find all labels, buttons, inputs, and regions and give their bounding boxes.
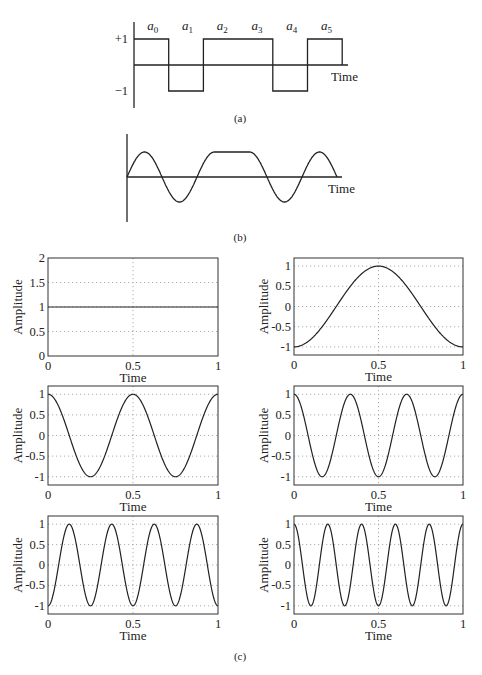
y-tick-label: -1 — [35, 599, 45, 613]
y-tick-label: 1 — [285, 517, 291, 531]
subplot-c5: -1-0.500.5100.51TimeAmplitude — [10, 516, 221, 643]
y-axis-label: Amplitude — [10, 537, 25, 593]
x-tick-label: 0 — [45, 488, 51, 502]
y-tick-label: 0.5 — [275, 408, 291, 422]
y-tick-label: 1 — [285, 387, 291, 401]
y-axis-label: Amplitude — [256, 278, 271, 334]
panel-a-ytick-minus1: −1 — [115, 84, 128, 98]
subplot-c6: -1-0.500.5100.51TimeAmplitude — [256, 516, 466, 643]
y-tick-label: 1 — [39, 387, 45, 401]
y-tick-label: 0 — [285, 429, 291, 443]
panel-b-xlabel: Time — [328, 181, 355, 196]
y-tick-label: 1 — [39, 300, 45, 314]
x-axis-label: Time — [120, 628, 147, 643]
panel-a-xlabel: Time — [331, 69, 358, 84]
y-tick-label: 0 — [39, 429, 45, 443]
y-tick-label: 1.5 — [29, 276, 45, 290]
y-tick-label: -1 — [281, 470, 291, 484]
panel-c-caption: (c) — [234, 650, 247, 663]
y-tick-label: 1 — [285, 259, 291, 273]
y-tick-label: 0.5 — [29, 325, 45, 339]
x-tick-label: 1 — [215, 617, 221, 631]
panel-a: +1 −1 Time a0a1a2a3a4a5 (a) — [115, 18, 359, 125]
panel-a-symbol-labels: a0a1a2a3a4a5 — [147, 18, 332, 35]
symbol-label-a1: a1 — [182, 18, 193, 35]
y-axis-label: Amplitude — [10, 407, 25, 463]
x-tick-label: 1 — [460, 488, 466, 502]
y-tick-label: -1 — [281, 599, 291, 613]
subplot-c1: 00.511.5200.51TimeAmplitude — [10, 251, 221, 385]
x-axis-label: Time — [120, 370, 147, 385]
symbol-label-a5: a5 — [321, 18, 333, 35]
subplot-c2: -1-0.500.5100.51TimeAmplitude — [256, 258, 466, 384]
y-tick-label: -0.5 — [271, 320, 291, 334]
x-tick-label: 0 — [45, 617, 51, 631]
y-tick-label: 1 — [39, 517, 45, 531]
x-tick-label: 0 — [291, 358, 297, 372]
figure: +1 −1 Time a0a1a2a3a4a5 (a) Time (b) 00.… — [0, 0, 482, 675]
x-tick-label: 1 — [460, 617, 466, 631]
y-tick-label: 0.5 — [275, 279, 291, 293]
y-tick-label: -1 — [35, 470, 45, 484]
y-axis-label: Amplitude — [256, 407, 271, 463]
symbol-label-a0: a0 — [147, 18, 159, 35]
y-tick-label: 0.5 — [275, 538, 291, 552]
x-axis-label: Time — [120, 499, 147, 514]
x-axis-label: Time — [365, 369, 392, 384]
y-axis-label: Amplitude — [256, 537, 271, 593]
panel-c: 00.511.5200.51TimeAmplitude-1-0.500.5100… — [10, 251, 466, 643]
symbol-label-a3: a3 — [252, 18, 264, 35]
y-tick-label: 0.5 — [29, 538, 45, 552]
y-tick-label: -0.5 — [25, 449, 45, 463]
panel-b: Time (b) — [127, 134, 355, 244]
panel-a-caption: (a) — [234, 112, 247, 125]
y-tick-label: 0 — [285, 558, 291, 572]
y-tick-label: 0 — [39, 558, 45, 572]
x-tick-label: 1 — [215, 359, 221, 373]
y-tick-label: -0.5 — [271, 449, 291, 463]
x-tick-label: 0 — [291, 617, 297, 631]
y-tick-label: -1 — [281, 340, 291, 354]
x-tick-label: 0 — [291, 488, 297, 502]
y-tick-label: -0.5 — [25, 578, 45, 592]
y-tick-label: 0.5 — [29, 408, 45, 422]
symbol-label-a4: a4 — [286, 18, 298, 35]
panel-b-caption: (b) — [234, 231, 247, 244]
symbol-label-a2: a2 — [217, 18, 228, 35]
subplot-c4: -1-0.500.5100.51TimeAmplitude — [256, 386, 466, 514]
y-tick-label: -0.5 — [271, 578, 291, 592]
y-axis-label: Amplitude — [10, 279, 25, 335]
y-tick-label: 0 — [285, 300, 291, 314]
x-axis-label: Time — [365, 628, 392, 643]
y-tick-label: 2 — [39, 251, 45, 265]
x-tick-label: 1 — [460, 358, 466, 372]
x-axis-label: Time — [365, 499, 392, 514]
x-tick-label: 1 — [215, 488, 221, 502]
panel-a-ytick-plus1: +1 — [115, 32, 128, 46]
x-tick-label: 0 — [45, 359, 51, 373]
subplot-c3: -1-0.500.5100.51TimeAmplitude — [10, 386, 221, 514]
